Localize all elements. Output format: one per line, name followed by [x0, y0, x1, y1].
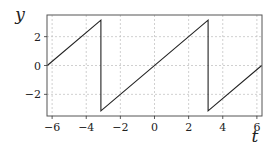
x-axis-ticks: −6−4−20246 — [44, 116, 260, 134]
x-tick-label: 4 — [219, 121, 226, 134]
y-axis-ticks: −202 — [25, 31, 47, 102]
sawtooth-chart: −6−4−20246 −202 t y — [0, 0, 280, 160]
y-axis-label: y — [14, 4, 25, 24]
x-tick-label: −6 — [44, 121, 60, 134]
x-tick-label: −4 — [78, 121, 94, 134]
y-tick-label: −2 — [25, 88, 41, 101]
x-tick-label: 2 — [185, 121, 192, 134]
y-tick-label: 2 — [34, 31, 41, 44]
y-tick-label: 0 — [34, 60, 41, 73]
x-axis-label: t — [252, 126, 259, 146]
x-tick-label: 0 — [151, 121, 158, 134]
x-tick-label: −2 — [112, 121, 128, 134]
